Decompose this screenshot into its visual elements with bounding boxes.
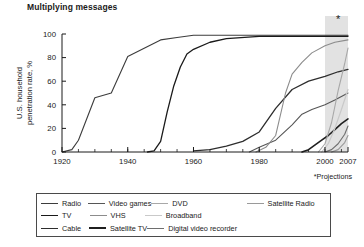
legend-label: Broadband (166, 211, 202, 220)
axis-ticks: 020406080100192019401960198020002007 (43, 30, 357, 166)
legend-label: DVD (172, 199, 187, 208)
legend-swatch-icon (89, 227, 106, 229)
legend-label: Radio (62, 199, 81, 208)
legend-label: VHS (111, 211, 126, 220)
y-axis-label-line: U.S. household (15, 67, 24, 119)
legend-item-radio[interactable]: Radio (41, 199, 88, 208)
asterisk-icon: * (336, 13, 341, 25)
legend-swatch-icon (41, 203, 58, 204)
legend-item-dvd[interactable]: DVD (151, 199, 246, 208)
legend-item-satellite-tv[interactable]: Satellite TV (89, 224, 147, 233)
x-tick-label: 1920 (53, 157, 71, 166)
y-tick-label: 100 (43, 30, 57, 39)
legend-swatch-icon (147, 228, 164, 229)
legend-item-video-games[interactable]: Video games (88, 199, 151, 208)
legend-swatch-icon (151, 203, 168, 204)
y-tick-label: 40 (47, 101, 56, 110)
x-tick-label: 2007 (339, 157, 356, 166)
chart-legend: RadioVideo gamesDVDSatellite Radio TVVHS… (36, 193, 331, 237)
legend-label: Satellite Radio (268, 199, 315, 208)
legend-item-cable[interactable]: Cable (41, 224, 89, 233)
legend-item-satellite-radio[interactable]: Satellite Radio (247, 199, 326, 208)
series-line-radio (62, 35, 348, 152)
legend-swatch-icon (247, 203, 264, 204)
legend-swatch-icon (41, 215, 58, 216)
projection-asterisk: * (336, 13, 341, 25)
legend-label: Digital video recorder (168, 224, 237, 233)
legend-label: TV (62, 211, 71, 220)
y-axis-label: U.S. householdpenetration rate, % (15, 61, 34, 125)
plot-axes (62, 34, 348, 152)
legend-item-digital-video-recorder[interactable]: Digital video recorder (147, 224, 245, 233)
series-lines (62, 35, 348, 152)
series-line-tv (147, 36, 348, 152)
chart-page: Multiplying messages 0204060801001920194… (0, 0, 364, 247)
y-tick-label: 20 (47, 124, 56, 133)
x-tick-label: 1940 (119, 157, 137, 166)
legend-row: CableSatellite TVDigital video recorder (41, 222, 326, 235)
y-tick-label: 60 (47, 77, 56, 86)
legend-item-tv[interactable]: TV (41, 211, 90, 220)
legend-row: TVVHSBroadband (41, 210, 326, 223)
y-tick-label: 80 (47, 53, 56, 62)
x-tick-label: 1960 (185, 157, 203, 166)
legend-label: Cable (62, 224, 81, 233)
y-axis-label-line: penetration rate, % (25, 61, 34, 125)
legend-swatch-icon (41, 228, 58, 229)
chart-plot-area: 020406080100192019401960198020002007 U.S… (0, 0, 364, 190)
x-tick-label: 2000 (316, 157, 334, 166)
legend-item-broadband[interactable]: Broadband (145, 211, 244, 220)
projections-footnote: *Projections (314, 172, 352, 181)
legend-label: Satellite TV (110, 224, 147, 233)
legend-row: RadioVideo gamesDVDSatellite Radio (41, 197, 326, 210)
legend-swatch-icon (90, 215, 107, 216)
legend-label: Video games (109, 199, 151, 208)
x-tick-label: 1980 (251, 157, 269, 166)
y-tick-label: 0 (52, 148, 57, 157)
legend-swatch-icon (88, 203, 105, 204)
legend-item-vhs[interactable]: VHS (90, 211, 145, 220)
legend-swatch-icon (145, 215, 162, 216)
